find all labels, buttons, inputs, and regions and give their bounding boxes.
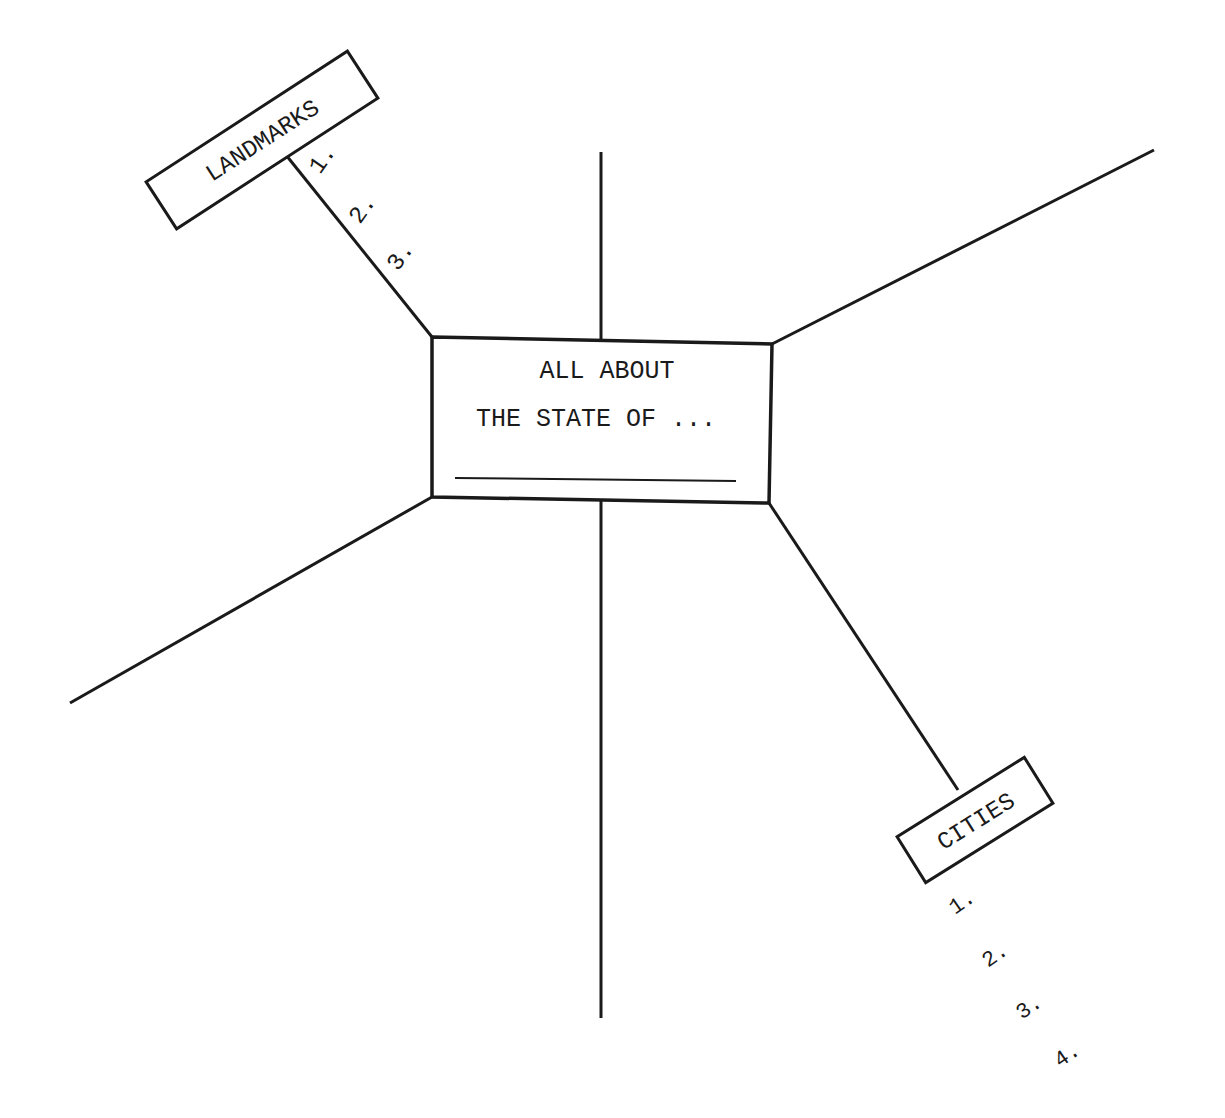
- cities-item-3: 3.: [1012, 990, 1048, 1026]
- center-box: ALL ABOUT THE STATE OF ...: [432, 337, 772, 503]
- landmarks-label-box: LANDMARKS: [146, 51, 378, 229]
- cities-item-1: 1.: [945, 885, 981, 921]
- cities-label-box: CITIES: [897, 757, 1053, 882]
- spoke-cities: [769, 503, 958, 790]
- center-title-line2: THE STATE OF ...: [476, 405, 716, 434]
- spoke-bottom-left: [70, 497, 432, 703]
- center-title-line1: ALL ABOUT: [539, 357, 674, 386]
- landmarks-item-1: 1.: [304, 140, 343, 179]
- landmarks-item-2: 2.: [344, 190, 383, 229]
- cities-item-2: 2.: [978, 938, 1014, 974]
- landmarks-item-3: 3.: [382, 237, 421, 276]
- state-web-diagram: ALL ABOUT THE STATE OF ... LANDMARKS 1. …: [0, 0, 1225, 1118]
- cities-item-4: 4.: [1050, 1038, 1086, 1074]
- spoke-top-right: [772, 150, 1154, 344]
